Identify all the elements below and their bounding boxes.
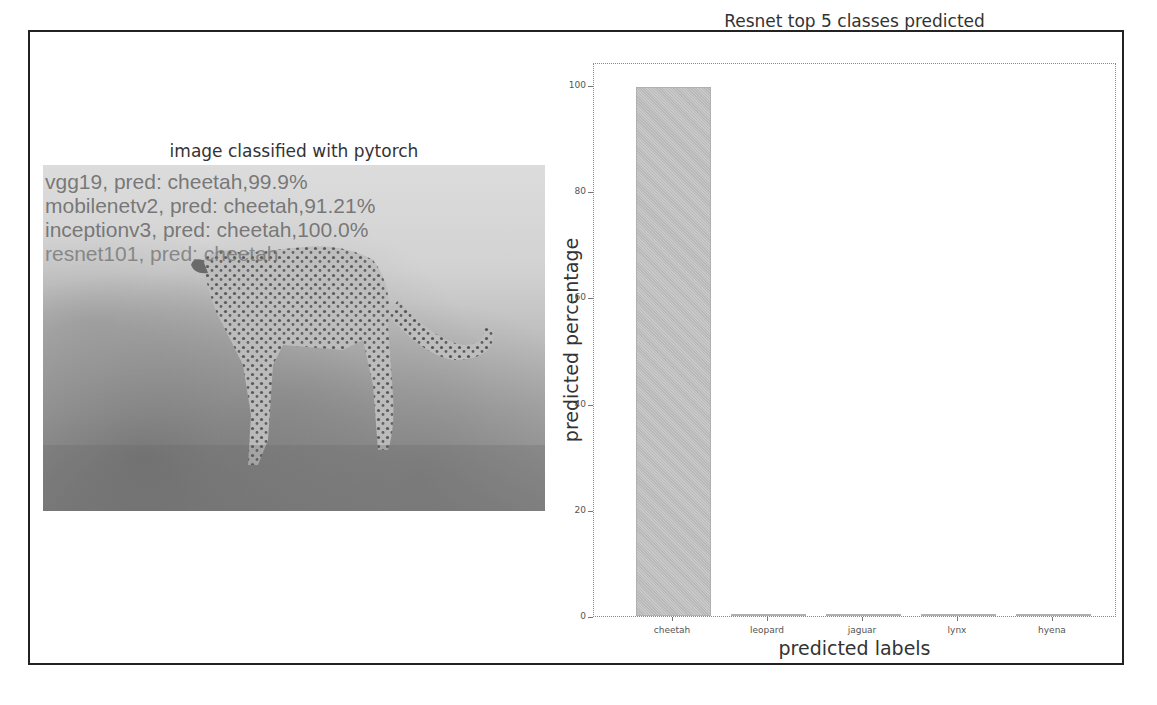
y-tick-label: 0 — [560, 611, 586, 621]
y-axis-label: predicted percentage — [560, 238, 582, 442]
chart-title: Resnet top 5 classes predicted — [593, 11, 1116, 31]
y-tick-mark — [588, 192, 593, 193]
image-panel-title: image classified with pytorch — [43, 141, 545, 161]
x-tick-label: cheetah — [632, 625, 712, 635]
y-tick-label: 80 — [560, 186, 586, 196]
bar-hyena — [1016, 614, 1091, 616]
x-tick-label: jaguar — [822, 625, 902, 635]
overlay-line-mobilenetv2: mobilenetv2, pred: cheetah,91.21% — [45, 194, 375, 218]
bar-jaguar — [826, 614, 901, 616]
overlay-line-vgg19: vgg19, pred: cheetah,99.9% — [45, 170, 375, 194]
x-tick-mark — [957, 617, 958, 621]
y-tick-mark — [588, 298, 593, 299]
x-tick-label: leopard — [727, 625, 807, 635]
y-tick-mark — [588, 617, 593, 618]
bar-lynx — [921, 614, 996, 616]
x-tick-label: lynx — [917, 625, 997, 635]
overlay-line-inceptionv3: inceptionv3, pred: cheetah,100.0% — [45, 218, 375, 242]
y-tick-mark — [588, 86, 593, 87]
x-tick-mark — [672, 617, 673, 621]
x-tick-mark — [862, 617, 863, 621]
y-tick-mark — [588, 511, 593, 512]
x-axis-label: predicted labels — [593, 637, 1116, 659]
overlay-line-resnet101: resnet101, pred: cheetah — [45, 242, 375, 266]
x-tick-label: hyena — [1012, 625, 1092, 635]
y-tick-label: 100 — [560, 80, 586, 90]
plot-area — [593, 63, 1116, 617]
bar-cheetah — [636, 87, 711, 616]
bar-leopard — [731, 614, 806, 616]
y-tick-mark — [588, 405, 593, 406]
y-tick-label: 20 — [560, 505, 586, 515]
x-tick-mark — [767, 617, 768, 621]
x-tick-mark — [1052, 617, 1053, 621]
prediction-overlay: vgg19, pred: cheetah,99.9% mobilenetv2, … — [45, 170, 375, 266]
